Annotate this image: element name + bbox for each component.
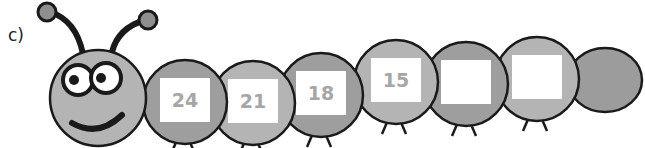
caterpillar-segment: 24 [143, 60, 227, 148]
pupil-left [69, 75, 79, 85]
pupil-right [96, 73, 106, 83]
antenna-right-knob [139, 11, 157, 29]
segment-number: 15 [383, 69, 409, 91]
segment-number: 24 [172, 89, 198, 111]
caterpillar-segment: 15 [354, 40, 438, 134]
caterpillar-head [38, 3, 157, 146]
answer-box[interactable] [512, 55, 562, 99]
segment-number: 18 [308, 82, 334, 104]
caterpillar-illustration: 15182124 [0, 0, 645, 148]
antenna-left-knob [38, 3, 56, 21]
answer-box[interactable] [441, 60, 491, 104]
segment-number: 21 [240, 90, 266, 112]
